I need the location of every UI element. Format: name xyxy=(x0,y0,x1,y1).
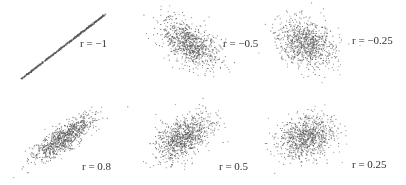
label-r-0.5: r = 0.5 xyxy=(219,161,248,172)
scatter-canvas xyxy=(0,0,406,185)
label-r-neg0.5: r = −0.5 xyxy=(223,38,258,49)
label-r-0.25: r = 0.25 xyxy=(352,159,387,170)
label-r-neg1: r = −1 xyxy=(80,38,107,49)
label-r-0.8: r = 0.8 xyxy=(82,161,111,172)
correlation-scatter-grid: r = −1 r = −0.5 r = −0.25 r = 0.8 r = 0.… xyxy=(0,0,406,185)
label-r-neg0.25: r = −0.25 xyxy=(352,35,393,46)
